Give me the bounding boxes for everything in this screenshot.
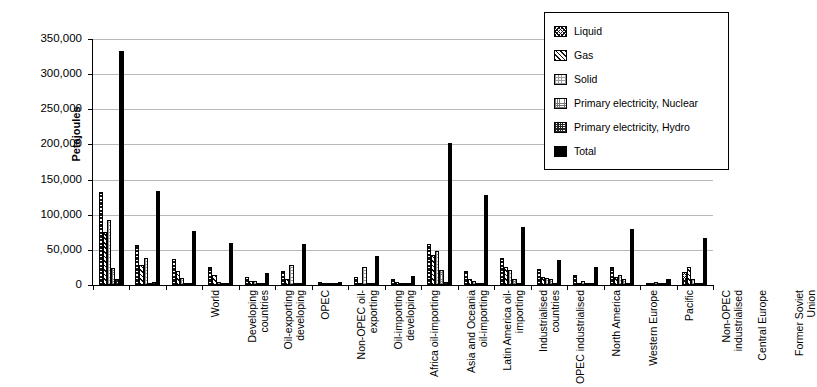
y-axis-tick-label: 300,000 bbox=[0, 68, 82, 80]
bar-group bbox=[464, 39, 489, 285]
legend-swatch-icon bbox=[554, 74, 567, 85]
x-axis-tick bbox=[677, 285, 678, 290]
y-axis-tick bbox=[88, 180, 93, 181]
x-axis-tick bbox=[494, 285, 495, 290]
x-axis-tick bbox=[604, 285, 605, 290]
y-axis-tick bbox=[88, 74, 93, 75]
x-axis-tick bbox=[567, 285, 568, 290]
x-axis-tick bbox=[312, 285, 313, 290]
y-axis-tick-label: 150,000 bbox=[0, 174, 82, 186]
bar-group bbox=[500, 39, 525, 285]
bar-group bbox=[427, 39, 452, 285]
legend-item[interactable]: Primary electricity, Nuclear bbox=[545, 91, 728, 115]
y-axis-tick bbox=[88, 39, 93, 40]
bar-group bbox=[354, 39, 379, 285]
legend-item[interactable]: Gas bbox=[545, 43, 728, 67]
bar bbox=[265, 273, 269, 285]
bar-group bbox=[245, 39, 270, 285]
legend-swatch-icon bbox=[554, 146, 567, 157]
legend-item[interactable]: Solid bbox=[545, 67, 728, 91]
x-axis-tick bbox=[348, 285, 349, 290]
x-axis-tick bbox=[93, 285, 94, 290]
bar bbox=[192, 231, 196, 285]
bar bbox=[630, 229, 634, 285]
y-axis-tick-label: 0 bbox=[0, 279, 82, 291]
bar bbox=[338, 282, 342, 286]
bar bbox=[594, 267, 598, 285]
x-axis-category-label: Pacific bbox=[684, 290, 696, 385]
y-axis-tick-label: 50,000 bbox=[0, 244, 82, 256]
x-axis-category-label: OPEC industrialised bbox=[575, 290, 587, 385]
bar-group bbox=[318, 39, 343, 285]
x-axis-category-label: OPEC bbox=[320, 290, 332, 385]
bar bbox=[448, 143, 452, 285]
legend-swatch-icon bbox=[554, 50, 567, 61]
y-axis-tick bbox=[88, 215, 93, 216]
bar bbox=[302, 244, 306, 285]
x-axis-category-label: Asia and Oceania oil-importing bbox=[466, 290, 489, 385]
bar bbox=[484, 195, 488, 285]
x-axis-tick bbox=[421, 285, 422, 290]
legend-label: Gas bbox=[574, 49, 593, 61]
x-axis-category-label: Oil-exporting developing bbox=[283, 290, 306, 385]
x-axis-category-label: Non-OPEC industrialised bbox=[721, 290, 744, 385]
legend-label: Total bbox=[574, 145, 596, 157]
x-axis-category-label: World bbox=[210, 290, 222, 385]
y-axis-tick-label: 350,000 bbox=[0, 33, 82, 45]
legend-label: Primary electricity, Nuclear bbox=[574, 97, 698, 109]
y-axis-tick bbox=[88, 250, 93, 251]
x-axis-tick bbox=[129, 285, 130, 290]
x-axis-category-label: Developing countries bbox=[247, 290, 270, 385]
y-axis-tick-label: 250,000 bbox=[0, 103, 82, 115]
legend-item[interactable]: Liquid bbox=[545, 19, 728, 43]
bar-group bbox=[99, 39, 124, 285]
bar bbox=[666, 279, 670, 285]
bar bbox=[411, 276, 415, 285]
legend-item[interactable]: Primary electricity, Hydro bbox=[545, 115, 728, 139]
bar bbox=[375, 256, 379, 285]
bar-group bbox=[208, 39, 233, 285]
bar bbox=[156, 191, 160, 285]
legend-label: Solid bbox=[574, 73, 597, 85]
x-axis-category-label: Oil-importing developing bbox=[393, 290, 416, 385]
y-axis-tick-label: 200,000 bbox=[0, 138, 82, 150]
x-axis-category-label: Western Europe bbox=[648, 290, 660, 385]
bar bbox=[703, 238, 707, 285]
bar-group bbox=[172, 39, 197, 285]
x-axis-tick bbox=[713, 285, 714, 290]
x-axis-category-label: Industrialised countries bbox=[538, 290, 561, 385]
x-axis-tick bbox=[385, 285, 386, 290]
x-axis-tick bbox=[239, 285, 240, 290]
legend-swatch-icon bbox=[554, 122, 567, 133]
x-axis-tick bbox=[166, 285, 167, 290]
y-axis-tick bbox=[88, 109, 93, 110]
x-axis-category-label: North America bbox=[611, 290, 623, 385]
bar-group bbox=[281, 39, 306, 285]
x-axis-category-label: Non-OPEC oil-exporting bbox=[356, 290, 379, 385]
y-axis-tick-label: 100,000 bbox=[0, 209, 82, 221]
x-axis-category-label: Central Europe bbox=[757, 290, 769, 385]
x-axis-tick bbox=[458, 285, 459, 290]
bar bbox=[119, 51, 123, 285]
bar-group bbox=[391, 39, 416, 285]
legend-swatch-icon bbox=[554, 26, 567, 37]
x-axis-tick bbox=[275, 285, 276, 290]
x-axis-tick bbox=[202, 285, 203, 290]
bar-group bbox=[135, 39, 160, 285]
legend-swatch-icon bbox=[554, 98, 567, 109]
bar bbox=[557, 260, 561, 285]
x-axis-category-label: Africa oil-importing bbox=[429, 290, 441, 385]
legend-item[interactable]: Total bbox=[545, 139, 728, 163]
bar bbox=[521, 227, 525, 285]
chart-legend: LiquidGasSolidPrimary electricity, Nucle… bbox=[544, 12, 729, 170]
x-axis-tick bbox=[640, 285, 641, 290]
bar bbox=[229, 243, 233, 285]
legend-label: Liquid bbox=[574, 25, 602, 37]
x-axis-category-label: Former Soviet Union bbox=[794, 290, 817, 385]
bar bbox=[144, 258, 148, 285]
y-axis-tick bbox=[88, 144, 93, 145]
legend-label: Primary electricity, Hydro bbox=[574, 121, 690, 133]
x-axis-category-label: Latin America oil-importing bbox=[502, 290, 525, 385]
x-axis-tick bbox=[531, 285, 532, 290]
